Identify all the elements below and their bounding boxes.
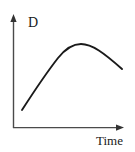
x-axis-label: Time <box>96 134 123 147</box>
chart-figure: D Time <box>0 0 135 152</box>
chart-plot-area <box>0 0 135 152</box>
data-curve <box>22 44 122 110</box>
arrow-right-icon <box>116 124 124 130</box>
arrow-up-icon <box>10 14 16 22</box>
y-axis-label: D <box>28 16 38 30</box>
